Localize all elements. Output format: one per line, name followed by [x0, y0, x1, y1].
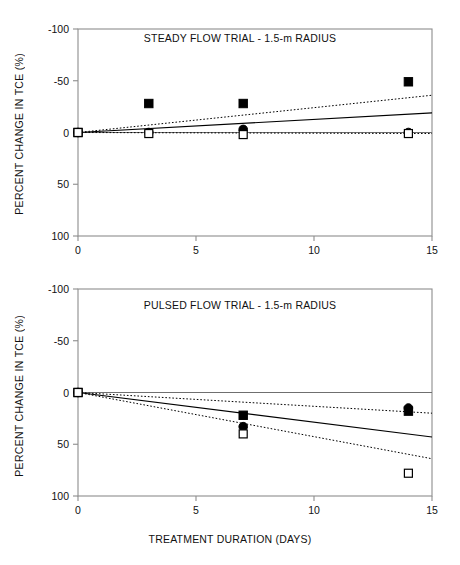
marker-filled-square	[145, 99, 153, 107]
y-tick-label: 100	[51, 230, 69, 242]
x-tick-label: 15	[426, 244, 438, 256]
marker-filled-square	[239, 99, 247, 107]
y-tick-label: 0	[63, 127, 69, 139]
y-tick-label: -50	[54, 75, 69, 87]
marker-filled-square	[239, 411, 247, 419]
trendline-filled-square-fit	[78, 95, 432, 132]
x-tick-label: 0	[75, 244, 81, 256]
y-tick-label: -50	[54, 335, 69, 347]
x-tick-label: 10	[308, 244, 320, 256]
panel-title-top: STEADY FLOW TRIAL - 1.5-m RADIUS	[10, 32, 460, 44]
trendline-filled-circle-fit	[78, 113, 432, 133]
y-tick-label: -100	[48, 283, 69, 295]
trendline-open-square-fit	[78, 393, 432, 459]
y-axis-title-bottom: PERCENT CHANGE IN TCE (%)	[8, 296, 30, 496]
y-tick-label: 100	[51, 490, 69, 502]
x-tick-label: 5	[193, 504, 199, 516]
marker-filled-square	[404, 78, 412, 86]
panel-title-bottom: PULSED FLOW TRIAL - 1.5-m RADIUS	[10, 299, 460, 311]
pulsed-flow-plot: 100500-50-100051015	[0, 270, 460, 565]
marker-open-square	[239, 430, 247, 438]
y-tick-label: 0	[63, 387, 69, 399]
trendline-filled-circle-fit	[78, 393, 432, 438]
marker-open-square	[145, 130, 153, 138]
y-axis-title-top-text: PERCENT CHANGE IN TCE (%)	[13, 53, 25, 215]
y-axis-title-top: PERCENT CHANGE IN TCE (%)	[8, 34, 30, 234]
x-tick-label: 5	[193, 244, 199, 256]
y-tick-label: 50	[57, 438, 69, 450]
marker-open-square	[239, 131, 247, 139]
marker-open-square	[74, 129, 82, 137]
panel-pulsed-flow: 100500-50-100051015	[0, 270, 460, 565]
marker-open-square	[74, 389, 82, 397]
x-axis-title: TREATMENT DURATION (DAYS)	[0, 533, 460, 545]
x-tick-label: 0	[75, 504, 81, 516]
x-tick-label: 15	[426, 504, 438, 516]
y-axis-title-bottom-text: PERCENT CHANGE IN TCE (%)	[13, 315, 25, 477]
y-tick-label: 50	[57, 178, 69, 190]
marker-open-square	[404, 469, 412, 477]
marker-open-square	[404, 130, 412, 138]
x-tick-label: 10	[308, 504, 320, 516]
marker-filled-circle	[404, 404, 413, 413]
figure-container: 100500-50-100051015 PERCENT CHANGE IN TC…	[0, 0, 460, 565]
